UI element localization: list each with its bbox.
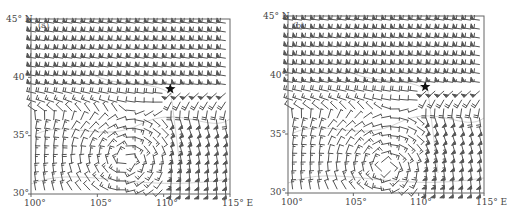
- wind-barb-map-b: [255, 0, 509, 219]
- x-tick-label: 110°: [156, 199, 178, 208]
- x-tick-label: 100°: [24, 199, 46, 208]
- x-tick-label: 115° E: [476, 198, 507, 207]
- y-tick-label: 35°: [13, 131, 29, 140]
- y-tick-label: 35°: [270, 130, 286, 139]
- x-tick-label: 100°: [281, 198, 303, 207]
- panel-label-a: (a): [38, 21, 49, 30]
- y-tick-label: 45° N: [6, 15, 33, 24]
- panel-b: (b) 45° N 40° 35° 30° 100° 105° 110° 115…: [255, 0, 509, 219]
- y-tick-label: 40°: [13, 73, 29, 82]
- x-tick-label: 105°: [90, 199, 112, 208]
- y-tick-label: 40°: [270, 71, 286, 80]
- wind-barbs: [284, 15, 482, 198]
- x-tick-label: 110°: [410, 198, 432, 207]
- y-tick-label: 45° N: [263, 12, 290, 21]
- y-tick-label: 30°: [13, 189, 29, 198]
- wind-barbs: [27, 18, 228, 199]
- panel-label-b: (b): [293, 21, 304, 30]
- province-boundaries: [31, 74, 230, 184]
- star-marker-icon: [165, 84, 175, 94]
- x-tick-label: 105°: [345, 198, 367, 207]
- wind-barb-map-a: [0, 0, 255, 219]
- y-tick-label: 30°: [270, 188, 286, 197]
- x-tick-label: 115° E: [222, 199, 253, 208]
- panel-a: (a) 45° N 40° 35° 30° 100° 105° 110° 115…: [0, 0, 255, 219]
- star-marker-icon: [420, 81, 430, 91]
